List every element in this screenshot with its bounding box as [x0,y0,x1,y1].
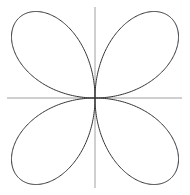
rose-curve-plot [0,0,190,195]
